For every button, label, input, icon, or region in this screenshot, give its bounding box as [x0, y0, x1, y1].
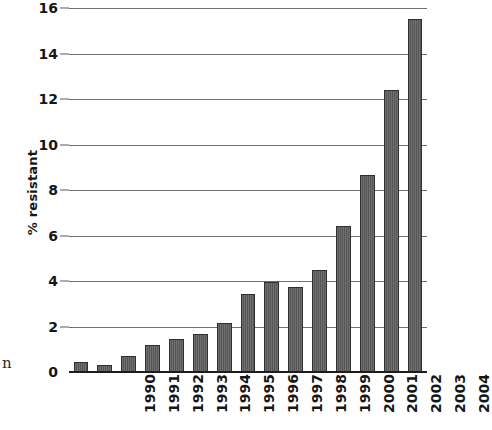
y-tick-label: 6 — [28, 229, 58, 243]
bar — [145, 345, 160, 372]
bar — [408, 19, 423, 372]
y-tick-label: 10 — [28, 138, 58, 152]
plot-area — [69, 8, 427, 372]
y-tick-mark — [60, 8, 69, 9]
x-tick-label: 1992 — [191, 374, 205, 430]
y-tick-label: 12 — [28, 92, 58, 106]
x-tick-label: 1993 — [215, 374, 229, 430]
bar — [264, 282, 279, 372]
y-tick-mark — [60, 99, 69, 100]
x-tick-label: 2001 — [405, 374, 419, 430]
x-tick-label: 2003 — [453, 374, 467, 430]
y-tick-label: 14 — [28, 47, 58, 61]
y-tick-mark — [60, 326, 69, 327]
y-tick-label: 4 — [28, 274, 58, 288]
x-tick-label: 1997 — [310, 374, 324, 430]
x-axis-tick-labels: 1990199119921993199419951996199719981999… — [69, 374, 427, 430]
y-tick-label: 16 — [28, 1, 58, 15]
y-tick-mark — [60, 235, 69, 236]
x-tick-label: 1991 — [167, 374, 181, 430]
bar — [241, 294, 256, 372]
x-tick-label: 1994 — [238, 374, 252, 430]
bar — [193, 334, 208, 372]
bar — [169, 339, 184, 372]
bar — [312, 270, 327, 372]
cropped-body-text-fragment: n — [2, 355, 14, 371]
y-tick-mark — [60, 144, 69, 145]
bar — [336, 226, 351, 372]
x-tick-label: 2004 — [477, 374, 491, 430]
y-tick-mark — [60, 281, 69, 282]
bar — [288, 287, 303, 372]
y-tick-label: 8 — [28, 183, 58, 197]
x-tick-label: 1995 — [262, 374, 276, 430]
bar — [121, 356, 136, 372]
x-tick-label: 2002 — [429, 374, 443, 430]
bar — [384, 90, 399, 372]
bar — [360, 175, 375, 372]
x-axis-line — [69, 371, 427, 373]
y-tick-mark — [60, 53, 69, 54]
bar — [217, 323, 232, 372]
x-tick-label: 1990 — [143, 374, 157, 430]
y-axis-tick-labels: 0246810121416 — [28, 0, 58, 380]
x-tick-label: 1999 — [358, 374, 372, 430]
x-tick-label: 1996 — [286, 374, 300, 430]
x-tick-label: 1998 — [334, 374, 348, 430]
x-tick-label: 2000 — [382, 374, 396, 430]
bar-series — [69, 8, 427, 372]
y-tick-mark — [60, 190, 69, 191]
y-tick-label: 0 — [28, 365, 58, 379]
y-tick-label: 2 — [28, 320, 58, 334]
